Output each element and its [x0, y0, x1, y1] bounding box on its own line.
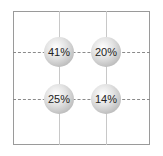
bubble-top-left: 41% [44, 37, 74, 67]
horizontal-gridline-1 [13, 52, 150, 53]
bubble-top-right: 20% [91, 37, 121, 67]
horizontal-gridline-2 [13, 99, 150, 100]
vertical-gridline-1 [59, 11, 60, 145]
quadrant-frame [13, 11, 150, 145]
bubble-bottom-left: 25% [44, 84, 74, 114]
bubble-bottom-right: 14% [91, 84, 121, 114]
vertical-gridline-2 [106, 11, 107, 145]
